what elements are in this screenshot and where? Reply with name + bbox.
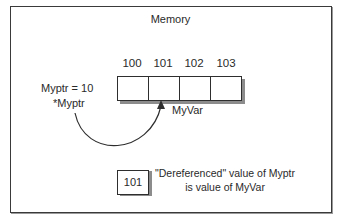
dereferenced-value-box: 101	[117, 170, 149, 195]
dereference-note: "Dereferenced" value of Myptr is value o…	[150, 166, 300, 194]
note-line-2: is value of MyVar	[150, 180, 300, 194]
note-line-1: "Dereferenced" value of Myptr	[150, 166, 300, 180]
